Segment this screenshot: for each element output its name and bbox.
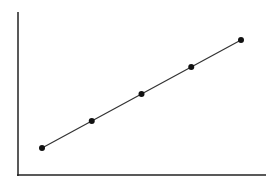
data-point-marker xyxy=(139,91,145,97)
data-point-marker xyxy=(39,145,45,151)
data-point-marker xyxy=(89,118,95,124)
data-point-marker xyxy=(238,37,244,43)
line-chart xyxy=(0,0,279,185)
data-series xyxy=(39,37,244,151)
data-point-marker xyxy=(188,64,194,70)
